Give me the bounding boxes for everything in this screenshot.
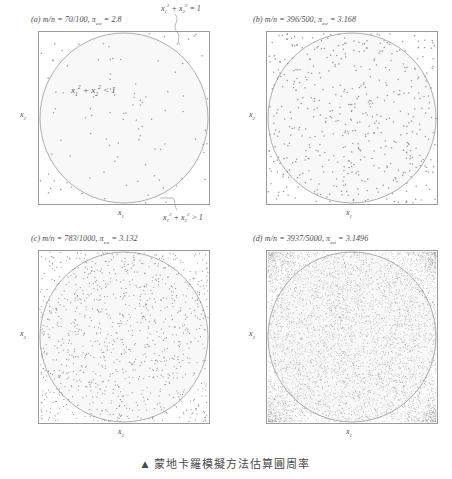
figure-caption: ▲蒙地卡羅模擬方法估算圓周率 — [0, 455, 452, 471]
panel-a-caption: (a) m/n = 70/100, πest = 2.8 — [31, 15, 122, 26]
panel-a-x-axis-label: x1 — [118, 208, 124, 219]
triangle-marker: ▲ — [142, 459, 149, 469]
panel-d-scatter-svg — [267, 251, 437, 423]
panel-c-caption: (c) m/n = 783/1000, πest = 3.132 — [31, 234, 138, 245]
panel-c-y-axis-label: x2 — [20, 329, 26, 340]
monte-carlo-pi-figure: (a) m/n = 70/100, πest = 2.8 x2 x1 x12 +… — [0, 0, 452, 479]
panel-d-plot-area — [266, 250, 438, 424]
panel-d-caption: (d) m/n = 3937/5000, πest = 3.1496 — [253, 234, 368, 245]
panel-a-y-axis-label: x2 — [20, 110, 26, 121]
panel-b-scatter-svg — [267, 32, 437, 204]
panel-b-plot-area — [266, 31, 438, 205]
inside-region-equation: x12 + x22 < 1 — [71, 84, 116, 97]
circle-equation-leader-line — [155, 12, 215, 50]
panel-c-x-axis-label: x1 — [118, 427, 124, 438]
panel-a-scatter-svg — [39, 32, 209, 204]
panel-b-x-axis-label: x1 — [346, 208, 352, 219]
panel-d-x-axis-label: x1 — [346, 427, 352, 438]
figure-caption-text: 蒙地卡羅模擬方法估算圓周率 — [154, 458, 310, 471]
panel-c-plot-area — [38, 250, 210, 424]
panel-b-caption: (b) m/n = 396/500, πest = 3.168 — [253, 15, 356, 26]
panel-d-y-axis-label: x2 — [249, 329, 255, 340]
outside-equation-leader-line — [158, 196, 198, 216]
panel-a-plot-area — [38, 31, 210, 205]
panel-c-scatter-svg — [39, 251, 209, 423]
panel-b-y-axis-label: x2 — [249, 110, 255, 121]
